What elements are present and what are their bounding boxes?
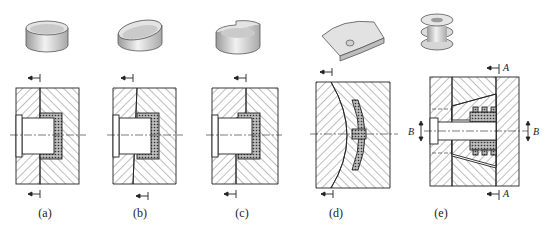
mold-section-d: [310, 68, 398, 198]
section-label-a-top: A: [502, 62, 510, 73]
part-render-d: [322, 21, 384, 61]
mold-parting-diagram: A A B B: [0, 0, 553, 232]
part-render-b: [117, 17, 164, 51]
mold-section-b: [107, 74, 183, 200]
panel-label-a: (a): [38, 206, 51, 221]
part-render-e: [421, 14, 453, 50]
part-render-c: [216, 21, 260, 54]
mold-section-c: [206, 74, 282, 198]
section-label-b-left: B: [408, 126, 414, 137]
section-label-a-bottom: A: [502, 188, 510, 199]
panel-label-e: (e): [434, 206, 447, 221]
section-label-b-right: B: [533, 126, 539, 137]
mold-section-e: [419, 64, 530, 200]
panel-label-c: (c): [235, 206, 248, 221]
part-render-a: [26, 21, 68, 52]
panel-label-d: (d): [329, 206, 343, 221]
panel-label-b: (b): [133, 206, 147, 221]
mold-section-a: [10, 74, 86, 198]
